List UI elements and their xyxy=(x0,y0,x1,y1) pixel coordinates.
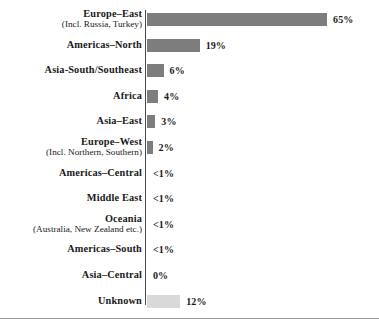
category-label-sub: (Incl. Russia, Turkey) xyxy=(0,20,142,29)
bar xyxy=(147,39,200,52)
bar xyxy=(147,13,327,26)
chart-row: Americas–North19% xyxy=(0,38,379,64)
chart-row: Oceania(Australia, New Zealand etc.)<1% xyxy=(0,217,379,243)
bar-value-label: 2% xyxy=(159,142,174,153)
category-label: Americas–Central xyxy=(0,168,142,178)
bar-value-label: 0% xyxy=(153,270,168,281)
bar xyxy=(147,141,153,154)
category-label-main: Americas–South xyxy=(0,244,142,254)
bar-chart: Europe–East(Incl. Russia, Turkey)65%Amer… xyxy=(0,0,379,327)
chart-row: Asia–Central0% xyxy=(0,268,379,294)
category-label: Asia–Central xyxy=(0,270,142,280)
bar-value-label: 4% xyxy=(164,91,179,102)
bar-value-label: <1% xyxy=(153,219,174,230)
category-label-main: Europe–West xyxy=(0,137,142,147)
bar xyxy=(147,64,164,77)
chart-row: Asia-South/Southeast6% xyxy=(0,63,379,89)
category-label: Oceania(Australia, New Zealand etc.) xyxy=(0,214,142,235)
category-label: Middle East xyxy=(0,193,142,203)
category-label-main: Asia–East xyxy=(0,116,142,126)
chart-row: Europe–East(Incl. Russia, Turkey)65% xyxy=(0,12,379,38)
category-label: Americas–South xyxy=(0,244,142,254)
category-label-main: Europe–East xyxy=(0,9,142,19)
category-label: Asia–East xyxy=(0,116,142,126)
bar xyxy=(147,90,158,103)
bar-value-label: 12% xyxy=(186,296,206,307)
chart-row: Americas–Central<1% xyxy=(0,166,379,192)
bar-value-label: 3% xyxy=(161,116,176,127)
category-label-sub: (Incl. Northern, Southern) xyxy=(0,148,142,157)
category-label-main: Americas–Central xyxy=(0,168,142,178)
category-label: Africa xyxy=(0,91,142,101)
bar xyxy=(147,295,180,308)
chart-row: Africa4% xyxy=(0,89,379,115)
bar-value-label: <1% xyxy=(153,193,174,204)
bar xyxy=(147,115,155,128)
category-label: Americas–North xyxy=(0,40,142,50)
category-label-main: Asia-South/Southeast xyxy=(0,65,142,75)
bar-value-label: 19% xyxy=(206,40,226,51)
category-label: Asia-South/Southeast xyxy=(0,65,142,75)
chart-row: Unknown12% xyxy=(0,294,379,320)
category-label: Unknown xyxy=(0,296,142,306)
category-label-main: Africa xyxy=(0,91,142,101)
chart-row: Americas–South<1% xyxy=(0,242,379,268)
bar-value-label: <1% xyxy=(153,168,174,179)
category-label: Europe–East(Incl. Russia, Turkey) xyxy=(0,9,142,30)
bar-value-label: 65% xyxy=(333,14,353,25)
bar-value-label: <1% xyxy=(153,244,174,255)
category-label: Europe–West(Incl. Northern, Southern) xyxy=(0,137,142,158)
bottom-divider-rule xyxy=(0,318,379,319)
category-label-main: Unknown xyxy=(0,296,142,306)
category-label-main: Americas–North xyxy=(0,40,142,50)
chart-row: Europe–West(Incl. Northern, Southern)2% xyxy=(0,140,379,166)
category-label-main: Oceania xyxy=(0,214,142,224)
category-label-main: Asia–Central xyxy=(0,270,142,280)
category-label-sub: (Australia, New Zealand etc.) xyxy=(0,225,142,234)
category-label-main: Middle East xyxy=(0,193,142,203)
bar-value-label: 6% xyxy=(170,65,185,76)
